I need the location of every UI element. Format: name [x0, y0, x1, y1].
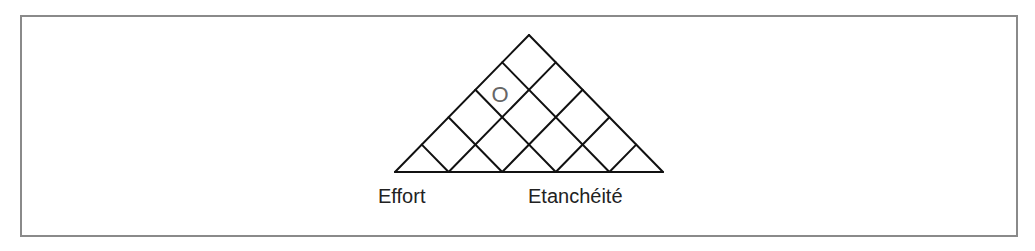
position-marker: O — [491, 82, 508, 107]
label-etancheite: Etanchéité — [528, 186, 623, 206]
triangle-grid: O — [0, 0, 1035, 251]
label-effort: Effort — [378, 186, 425, 206]
